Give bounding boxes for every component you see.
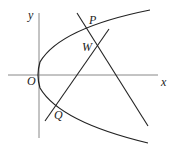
x-axis-label: x bbox=[160, 75, 167, 89]
point-w-label: W bbox=[82, 40, 93, 54]
point-q-label: Q bbox=[54, 108, 63, 122]
parabola-diagram: y x O P W Q bbox=[0, 0, 176, 147]
parabola-curve bbox=[38, 10, 150, 143]
point-p-label: P bbox=[88, 13, 97, 27]
y-axis-label: y bbox=[27, 8, 34, 22]
origin-label: O bbox=[27, 74, 36, 88]
line-through-p bbox=[77, 13, 148, 126]
